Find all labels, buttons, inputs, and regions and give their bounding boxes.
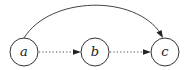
edge-a-to-b [39,49,81,55]
edge-b-to-c [110,49,151,55]
arrowhead-icon [73,49,81,55]
node-a: a [10,38,38,66]
node-label-c: c [161,44,169,59]
node-label-b: b [91,44,99,59]
arrowhead-icon [157,30,164,38]
graph-diagram: a b c [0,0,190,70]
arrowhead-icon [143,49,151,55]
edge-a-to-c [24,5,163,38]
node-label-a: a [20,44,28,59]
node-c: c [151,38,179,66]
node-b: b [81,38,109,66]
